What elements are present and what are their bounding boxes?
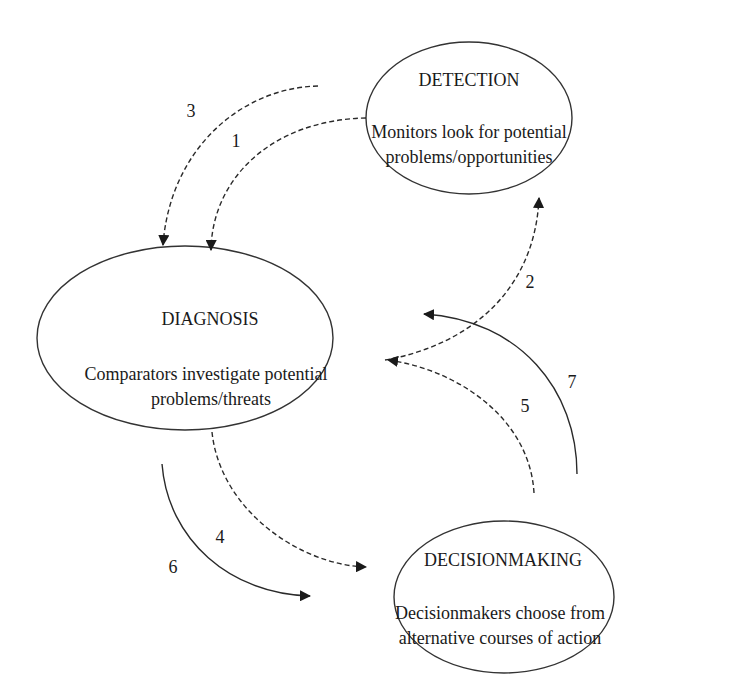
edge-3-label: 3	[187, 101, 196, 121]
edge-2-label: 2	[526, 272, 535, 292]
edge-7-path	[424, 314, 577, 474]
edge-4: 4	[212, 432, 366, 567]
diagnosis-desc-line-1: Comparators investigate potential	[85, 364, 328, 384]
detection-ellipse	[366, 42, 572, 194]
diagnosis-desc-line-2: problems/threats	[151, 389, 271, 409]
decisionmaking-title: DECISIONMAKING	[424, 550, 582, 570]
node-decisionmaking: DECISIONMAKING Decisionmakers choose fro…	[394, 521, 614, 673]
edge-1: 1	[211, 118, 366, 250]
node-detection: DETECTION Monitors look for potential pr…	[366, 42, 572, 194]
decisionmaking-desc-line-1: Decisionmakers choose from	[395, 603, 605, 623]
edge-7-label: 7	[568, 372, 577, 392]
decisionmaking-desc-line-2: alternative courses of action	[399, 628, 601, 648]
edge-5-label: 5	[521, 396, 530, 416]
edge-7: 7	[424, 314, 577, 474]
edge-6-path	[162, 464, 310, 596]
edge-5-path	[388, 360, 534, 493]
decisionmaking-ellipse	[394, 521, 614, 673]
diagnosis-title: DIAGNOSIS	[161, 309, 258, 329]
detection-desc-line-2: problems/opportunities	[386, 147, 553, 167]
process-diagram: DETECTION Monitors look for potential pr…	[0, 0, 750, 698]
edge-3: 3	[163, 86, 318, 245]
edge-2: 2	[385, 198, 539, 360]
edge-6: 6	[162, 464, 310, 596]
detection-desc-line-1: Monitors look for potential	[371, 122, 566, 142]
edge-4-label: 4	[216, 527, 225, 547]
edge-4-path	[212, 432, 366, 567]
edge-5: 5	[388, 360, 534, 493]
edge-2-path	[385, 198, 539, 360]
edge-6-label: 6	[169, 557, 178, 577]
edge-1-label: 1	[232, 131, 241, 151]
node-diagnosis: DIAGNOSIS Comparators investigate potent…	[37, 246, 333, 430]
detection-title: DETECTION	[419, 70, 520, 90]
